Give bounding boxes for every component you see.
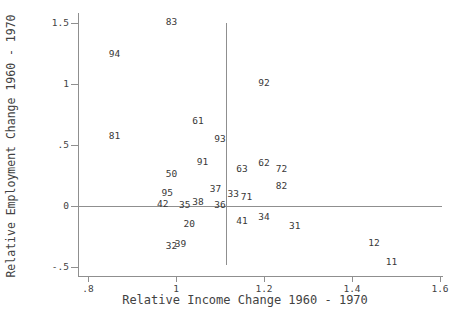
zero-reference-line <box>79 206 442 207</box>
data-point-label: 20 <box>183 219 194 229</box>
data-point-label: 95 <box>161 188 172 198</box>
y-tick-label: 1 <box>37 78 69 90</box>
data-point-label: 33 <box>227 189 238 199</box>
data-point-label: 82 <box>276 181 287 191</box>
data-point-label: 61 <box>192 116 203 126</box>
y-tick-mark <box>71 84 78 85</box>
data-point-label: 72 <box>276 164 287 174</box>
data-point-label: 11 <box>386 257 397 267</box>
x-tick-mark <box>440 276 441 282</box>
x-tick-label: 1.6 <box>425 283 455 295</box>
data-point-label: 94 <box>109 49 120 59</box>
scatter-plot-figure: .811.21.41.61.51.50-.5839492618193916263… <box>0 0 463 316</box>
y-axis-line <box>78 13 79 276</box>
x-axis-title: Relative Income Change 1960 - 1970 <box>70 293 420 307</box>
data-point-label: 62 <box>258 158 269 168</box>
data-point-label: 31 <box>289 221 300 231</box>
y-tick-label: 1.5 <box>37 17 69 29</box>
x-tick-mark <box>264 276 265 282</box>
data-point-label: 91 <box>197 157 208 167</box>
y-tick-label: 0 <box>37 200 69 212</box>
data-point-label: 32 <box>166 241 177 251</box>
data-point-label: 38 <box>192 197 203 207</box>
data-point-label: 12 <box>368 238 379 248</box>
data-point-label: 83 <box>166 17 177 27</box>
data-point-label: 92 <box>258 78 269 88</box>
x-axis-line <box>78 276 443 277</box>
y-tick-label: -.5 <box>37 261 69 273</box>
y-tick-label: .5 <box>37 139 69 151</box>
y-tick-mark <box>71 23 78 24</box>
y-tick-mark <box>71 145 78 146</box>
data-point-label: 37 <box>210 184 221 194</box>
data-point-label: 41 <box>236 216 247 226</box>
vertical-reference-line <box>226 23 227 265</box>
data-point-label: 36 <box>214 200 225 210</box>
x-tick-mark <box>352 276 353 282</box>
x-tick-mark <box>88 276 89 282</box>
x-tick-mark <box>176 276 177 282</box>
data-point-label: 81 <box>109 131 120 141</box>
data-point-label: 71 <box>241 192 252 202</box>
data-point-label: 34 <box>258 212 269 222</box>
y-tick-mark <box>71 206 78 207</box>
data-point-label: 42 <box>157 199 168 209</box>
data-point-label: 93 <box>214 134 225 144</box>
data-point-label: 63 <box>236 164 247 174</box>
data-point-label: 50 <box>166 169 177 179</box>
data-point-label: 35 <box>179 200 190 210</box>
y-axis-title: Relative Employment Change 1960 - 1970 <box>4 14 18 277</box>
y-tick-mark <box>71 267 78 268</box>
